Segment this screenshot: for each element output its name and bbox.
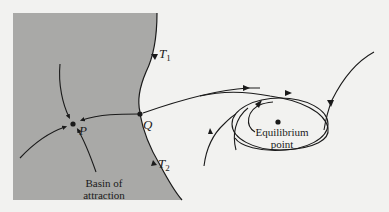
label-t2-subscript: 2 (165, 163, 170, 173)
trajectory-lower-incoming (204, 114, 236, 166)
q-outgoing-arrow-icon (243, 85, 250, 91)
limit-cycle-arrow-icon (285, 90, 292, 96)
label-q-text: Q (143, 117, 152, 132)
label-p-text: P (79, 123, 87, 138)
trajectory-q-outgoing (143, 88, 260, 113)
diagram-canvas (0, 0, 389, 212)
equilibrium-label: Equilibrium point (252, 126, 312, 150)
phase-portrait-diagram: P Q T1 T2 Basin of attraction Equilibriu… (0, 0, 389, 212)
basin-label-line2: attraction (72, 189, 136, 201)
label-t1: T1 (159, 47, 171, 63)
upper-right-arrow-icon (327, 100, 334, 107)
label-t2: T2 (158, 157, 170, 173)
trajectory-upper-right (324, 52, 374, 130)
equilibrium-label-line1: Equilibrium (252, 126, 312, 138)
basin-label: Basin of attraction (72, 177, 136, 201)
label-p: P (79, 124, 87, 137)
equilibrium-label-line2: point (252, 138, 312, 150)
label-q: Q (143, 118, 152, 131)
equilibrium-point (275, 119, 280, 124)
basin-label-line1: Basin of (72, 177, 136, 189)
basin-of-attraction-region (13, 13, 182, 200)
point-p (70, 121, 75, 126)
lower-incoming-arrow-icon (208, 128, 213, 134)
point-q (137, 111, 142, 116)
label-t1-subscript: 1 (166, 53, 171, 63)
